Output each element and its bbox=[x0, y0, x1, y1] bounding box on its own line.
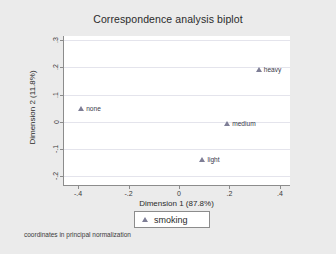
gridline-y-2 bbox=[64, 122, 290, 123]
y-tick-label-text: .3 bbox=[53, 37, 60, 43]
y-tick-label-3: .1 bbox=[46, 91, 59, 98]
x-tick-1 bbox=[129, 186, 130, 189]
y-tick-label-text: -.1 bbox=[51, 145, 58, 153]
gridline-y-3 bbox=[64, 95, 290, 96]
y-axis-title: Dimension 2 (11.8%) bbox=[28, 33, 37, 183]
y-tick-label-2: 0 bbox=[46, 118, 59, 125]
triangle-marker-icon bbox=[78, 106, 84, 111]
data-point-label: none bbox=[86, 104, 101, 113]
x-tick-label-3: .2 bbox=[227, 190, 233, 197]
footnote-text: coordinates in principal normalization bbox=[24, 231, 131, 238]
y-tick-3 bbox=[60, 95, 63, 96]
y-tick-label-4: .2 bbox=[46, 64, 59, 71]
x-tick-label-0: -.4 bbox=[74, 190, 82, 197]
y-tick-label-5: .3 bbox=[46, 37, 59, 44]
triangle-marker-icon bbox=[142, 217, 148, 222]
triangle-marker-icon bbox=[256, 67, 262, 72]
x-axis-title: Dimension 1 (87.8%) bbox=[63, 199, 290, 208]
y-tick-label-text: .2 bbox=[53, 64, 60, 70]
y-tick-label-text: -.2 bbox=[51, 172, 58, 180]
x-tick-0 bbox=[78, 186, 79, 189]
y-tick-0 bbox=[60, 176, 63, 177]
legend-item-label: smoking bbox=[154, 215, 188, 225]
x-tick-3 bbox=[229, 186, 230, 189]
x-tick-2 bbox=[179, 186, 180, 189]
chart-title: Correspondence analysis biplot bbox=[0, 13, 336, 25]
x-tick-label-1: -.2 bbox=[124, 190, 132, 197]
y-tick-4 bbox=[60, 67, 63, 68]
plot-area: noneheavymediumlight bbox=[63, 36, 290, 186]
data-point-label: heavy bbox=[264, 65, 282, 74]
y-tick-label-1: -.1 bbox=[46, 146, 59, 153]
x-tick-label-4: .4 bbox=[277, 190, 283, 197]
y-tick-1 bbox=[60, 149, 63, 150]
y-tick-label-text: 0 bbox=[54, 120, 61, 124]
triangle-marker-icon bbox=[224, 121, 230, 126]
x-tick-4 bbox=[280, 186, 281, 189]
triangle-marker-icon bbox=[199, 157, 205, 162]
figure-canvas: Correspondence analysis biplot noneheavy… bbox=[0, 0, 336, 254]
data-point-label: light bbox=[207, 155, 219, 164]
gridline-y-0 bbox=[64, 176, 290, 177]
legend-box[interactable]: smoking bbox=[134, 211, 210, 228]
y-tick-label-text: .1 bbox=[53, 92, 60, 98]
gridline-y-1 bbox=[64, 149, 290, 150]
data-point-label: medium bbox=[232, 119, 255, 128]
y-tick-5 bbox=[60, 40, 63, 41]
y-tick-label-0: -.2 bbox=[46, 173, 59, 180]
gridline-y-5 bbox=[64, 40, 290, 41]
x-tick-label-2: 0 bbox=[177, 190, 181, 197]
